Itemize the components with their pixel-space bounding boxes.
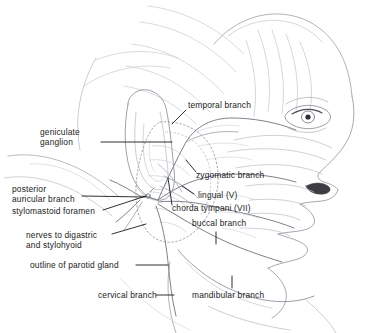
ear [125,90,174,201]
label-temporal-branch: temporal branch [188,100,251,110]
leader-temporal-branch [172,110,186,124]
anatomical-figure: temporal branch geniculate ganglion zygo… [0,0,382,333]
label-mandibular-branch: mandibular branch [192,290,264,300]
leader-stylomastoid-foramen [103,196,146,210]
temple-lines [246,30,312,116]
ear-helix [125,90,174,200]
chin-profile [268,268,286,318]
label-geniculate-ganglion: geniculate ganglion [40,127,80,147]
leader-nerves-digastric [112,224,146,234]
label-nerves-to-digastric-and-stylohyoid: nerves to digastric and stylohyoid [26,230,97,250]
label-stylomastoid-foramen: stylomastoid foramen [12,206,95,216]
label-posterior-auricular-branch: posterior auricular branch [12,184,75,204]
pupil [305,114,310,119]
face-outline-group [4,6,354,333]
nostril [306,183,330,194]
facial-nerve-branches [110,118,296,316]
leader-lingual [182,186,194,194]
eyebrow [286,97,328,104]
ear-concha [143,124,163,181]
label-zygomatic-branch: zygomatic branch [196,170,264,180]
label-chorda-tympani-vii: chorda tympani (VII) [172,203,251,213]
nose-profile [318,96,354,190]
ear-tragus [149,140,155,172]
leader-posterior-auricular [82,196,145,197]
facial-nerve-illustration [0,0,382,333]
label-lingual-v: lingual (V) [198,190,238,200]
lower-lip-chin [268,234,308,268]
occiput [78,58,96,150]
upper-lip [278,204,315,234]
label-cervical-branch: cervical branch [98,290,157,300]
neck-base [208,306,290,330]
eye [285,97,331,132]
leader-zygomatic-branch [186,160,196,172]
label-buccal-branch: buccal branch [192,218,246,228]
label-outline-of-parotid-gland: outline of parotid gland [30,260,119,270]
